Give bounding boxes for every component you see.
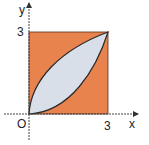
x-tick-label: 3	[104, 119, 111, 133]
y-axis-label: y	[19, 3, 25, 17]
y-tick-label: 3	[17, 25, 24, 39]
origin-label: O	[17, 117, 26, 131]
x-axis-label: x	[129, 117, 135, 131]
diagram: y 3 O 3 x	[0, 0, 149, 145]
